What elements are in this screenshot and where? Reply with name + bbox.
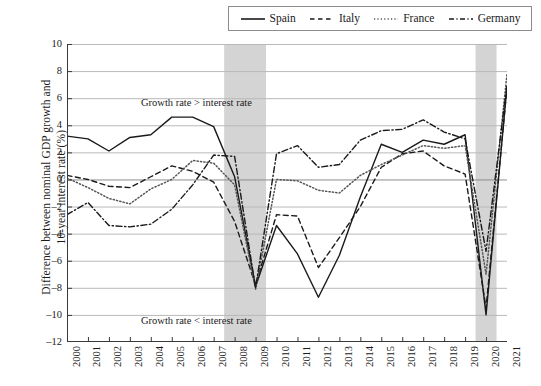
- line-style-dotted-icon: [373, 14, 399, 24]
- y-tick-label: 0: [36, 174, 62, 185]
- chart-legend: Spain Italy France Germany: [228, 6, 532, 31]
- shaded-band: [476, 44, 497, 342]
- plot-frame: [67, 44, 507, 342]
- x-tick-label: 2001: [92, 346, 103, 367]
- horizontal-gridlines: [67, 45, 507, 343]
- annotation-growth-below-interest: Growth rate < interest rate: [141, 316, 252, 327]
- x-tick-label: 2014: [365, 346, 376, 367]
- x-tick-label: 2004: [155, 346, 166, 367]
- legend-item-france[interactable]: France: [373, 13, 434, 25]
- y-tick-label: 10: [36, 39, 62, 50]
- recession-shaded-bands: [224, 44, 496, 342]
- x-axis-tick-labels: 2000200120022003200420052006200720082009…: [67, 346, 507, 386]
- x-tick-label: 2013: [344, 346, 355, 367]
- x-tick-label: 2011: [302, 346, 313, 367]
- y-tick-label: 4: [36, 120, 62, 131]
- shaded-band: [224, 44, 266, 342]
- x-tick-label: 2021: [512, 346, 523, 367]
- x-tick-label: 2007: [218, 346, 229, 367]
- x-tick-label: 2002: [113, 346, 124, 367]
- y-tick-label: –10: [36, 310, 62, 321]
- legend-label-spain: Spain: [270, 13, 296, 25]
- x-tick-label: 2000: [72, 346, 83, 367]
- series-line-italy[interactable]: [67, 87, 507, 308]
- x-tick-label: 2020: [491, 346, 502, 367]
- y-tick-label: 2: [36, 147, 62, 158]
- legend-item-italy[interactable]: Italy: [309, 13, 360, 25]
- series-line-spain[interactable]: [67, 86, 507, 315]
- legend-item-spain[interactable]: Spain: [240, 13, 296, 25]
- x-tick-label: 2018: [449, 346, 460, 367]
- plot-area: Growth rate > interest rate Growth rate …: [67, 44, 507, 342]
- legend-item-germany[interactable]: Germany: [448, 13, 521, 25]
- y-axis-tick-labels: 1086420–2–4–6–8–10–12: [34, 44, 62, 342]
- x-tick-label: 2003: [134, 346, 145, 367]
- legend-label-france: France: [403, 13, 434, 25]
- x-tick-label: 2006: [197, 346, 208, 367]
- series-line-france[interactable]: [67, 74, 507, 289]
- y-tick-label: 6: [36, 93, 62, 104]
- x-tick-label: 2009: [260, 346, 271, 367]
- y-tick-label: –2: [36, 201, 62, 212]
- y-tick-label: –8: [36, 283, 62, 294]
- chart-figure: Spain Italy France Germany Difference be…: [0, 0, 541, 386]
- legend-label-germany: Germany: [478, 13, 521, 25]
- x-tick-label: 2008: [239, 346, 250, 367]
- x-tick-label: 2005: [176, 346, 187, 367]
- x-tick-label: 2015: [386, 346, 397, 367]
- plot-svg: [67, 44, 507, 342]
- x-tick-label: 2010: [281, 346, 292, 367]
- y-tick-label: –4: [36, 228, 62, 239]
- line-style-dashdot-icon: [448, 14, 474, 24]
- line-style-solid-icon: [240, 14, 266, 24]
- line-style-dashed-icon: [309, 14, 335, 24]
- x-tick-label: 2016: [407, 346, 418, 367]
- annotation-growth-above-interest: Growth rate > interest rate: [141, 98, 252, 109]
- x-tick-label: 2012: [323, 346, 334, 367]
- x-tick-label: 2017: [428, 346, 439, 367]
- y-tick-label: –6: [36, 255, 62, 266]
- y-tick-label: 8: [36, 66, 62, 77]
- y-tick-label: –12: [36, 337, 62, 348]
- x-tick-label: 2019: [470, 346, 481, 367]
- series-lines: [67, 74, 507, 315]
- legend-label-italy: Italy: [339, 13, 360, 25]
